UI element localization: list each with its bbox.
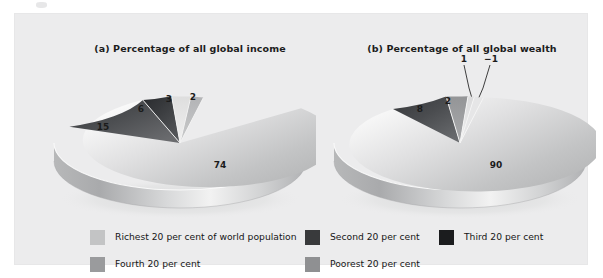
pie-b-label-1: 1 — [461, 54, 467, 64]
pie-a-label-74: 74 — [214, 160, 227, 170]
pie-a-label-3: 3 — [166, 94, 172, 104]
legend-label-second: Second 20 per cent — [330, 232, 420, 241]
pie-chart-b: 90 8 2 1 −1 — [320, 57, 596, 219]
legend-swatch-richest — [90, 230, 105, 245]
pie-a-label-2: 2 — [190, 92, 196, 102]
pie-chart-a-graphic — [40, 57, 316, 219]
legend-item-richest: Richest 20 per cent of world population — [90, 229, 297, 245]
pie-chart-a: 74 15 6 3 2 — [40, 57, 316, 219]
pie-a-label-6: 6 — [138, 104, 144, 114]
legend-label-third: Third 20 per cent — [464, 232, 543, 241]
legend-item-fourth: Fourth 20 per cent — [90, 256, 200, 272]
chart-b-title: (b) Percentage of all global wealth — [334, 43, 590, 54]
callout-leader-lines — [464, 65, 490, 97]
figure-plate: (a) Percentage of all global income (b) … — [14, 13, 588, 265]
legend-item-poorest: Poorest 20 per cent — [305, 256, 420, 272]
legend-item-second: Second 20 per cent — [305, 229, 420, 245]
figure-panel: (a) Percentage of all global income (b) … — [0, 0, 603, 278]
chart-a-title: (a) Percentage of all global income — [62, 43, 318, 54]
pie-b-label-minus-1: −1 — [484, 54, 498, 64]
legend-label-poorest: Poorest 20 per cent — [330, 259, 420, 268]
pie-chart-b-graphic — [320, 57, 596, 219]
pie-b-label-8: 8 — [417, 104, 423, 114]
legend-swatch-third — [439, 230, 454, 245]
pie-a-label-15: 15 — [97, 122, 110, 132]
legend-label-fourth: Fourth 20 per cent — [115, 259, 200, 268]
legend-item-third: Third 20 per cent — [439, 229, 543, 245]
legend-label-richest: Richest 20 per cent of world population — [115, 232, 297, 241]
legend-swatch-second — [305, 230, 320, 245]
legend-swatch-poorest — [305, 257, 320, 272]
pie-b-label-2: 2 — [445, 96, 451, 106]
scan-artifact-speck — [36, 2, 47, 8]
legend-swatch-fourth — [90, 257, 105, 272]
pie-b-label-90: 90 — [490, 160, 503, 170]
legend: Richest 20 per cent of world population … — [74, 227, 584, 277]
